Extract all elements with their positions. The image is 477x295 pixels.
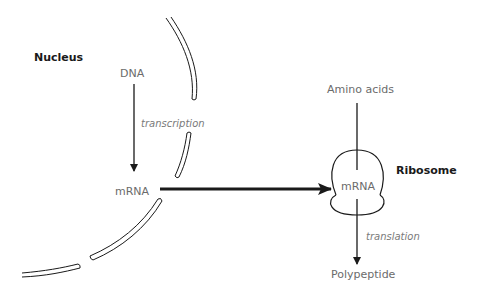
ribosome-label: Ribosome bbox=[396, 164, 457, 177]
protein-synthesis-diagram: Nucleus DNA transcription mRNA Amino aci… bbox=[0, 0, 477, 295]
dna-label: DNA bbox=[120, 67, 145, 80]
transcription-label: transcription bbox=[141, 118, 205, 129]
nuclear-envelope-segment-upper bbox=[166, 17, 197, 100]
nuclear-envelope-segment-bottom bbox=[22, 264, 80, 277]
polypeptide-label: Polypeptide bbox=[331, 268, 396, 281]
nucleus-label: Nucleus bbox=[34, 51, 84, 64]
translation-label: translation bbox=[366, 231, 420, 242]
amino-acids-label: Amino acids bbox=[327, 83, 394, 96]
nuclear-envelope-segment-lower bbox=[90, 198, 162, 260]
mrna-ribosome-label: mRNA bbox=[341, 180, 376, 193]
nuclear-envelope-segment-middle bbox=[175, 132, 191, 178]
mrna-nucleus-label: mRNA bbox=[115, 185, 150, 198]
